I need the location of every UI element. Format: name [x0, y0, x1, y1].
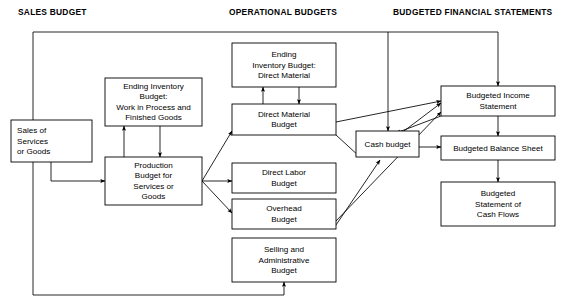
node-direct-labor-budget-label-line-1: Direct Labor [262, 168, 306, 177]
node-ending-inventory-budget-direct-material-label-line-3: Direct Material [258, 71, 310, 80]
node-selling-and-administrative-budget-label-line-1: Selling and [264, 245, 304, 254]
node-budgeted-balance-sheet[interactable]: Budgeted Balance Sheet [441, 136, 555, 160]
node-sales-of-services-or-goods-label-line-2: Services [17, 137, 48, 146]
node-budgeted-statement-of-cash-flows[interactable]: BudgetedStatement ofCash Flows [441, 182, 555, 226]
node-production-budget-for-services-or-goods-label-line-2: Budget for [135, 171, 173, 180]
node-ending-inventory-budget-work-in-process-finished-goods-label-line-3: Work in Process and [116, 103, 191, 112]
node-production-budget-for-services-or-goods[interactable]: ProductionBudget forServices orGoods [105, 157, 202, 205]
node-ending-inventory-budget-work-in-process-finished-goods-label-line-1: Ending Inventory [123, 82, 185, 91]
node-overhead-budget[interactable]: OverheadBudget [232, 199, 336, 229]
node-selling-and-administrative-budget-label-line-2: Administrative [259, 256, 310, 265]
node-budgeted-statement-of-cash-flows-label-line-3: Cash Flows [477, 210, 519, 219]
node-direct-labor-budget-label-line-2: Budget [271, 179, 297, 188]
node-ending-inventory-budget-direct-material[interactable]: EndingInventory Budget:Direct Material [232, 43, 336, 87]
node-cash-budget-label-line-1: Cash budget [365, 140, 412, 149]
node-direct-material-budget-label-line-2: Budget [271, 120, 297, 129]
node-production-budget-for-services-or-goods-label-line-3: Services or [133, 182, 174, 191]
node-ending-inventory-budget-work-in-process-finished-goods-label-line-4: Finished Goods [125, 113, 182, 122]
node-selling-and-administrative-budget[interactable]: Selling andAdministrativeBudget [232, 238, 336, 282]
master-budget-diagram: Sales ofServicesor GoodsEnding Inventory… [0, 0, 566, 308]
node-budgeted-income-statement[interactable]: Budgeted IncomeStatement [441, 86, 555, 116]
connector-direct-material-budget-to-budgeted-income-statement [336, 101, 441, 122]
node-production-budget-for-services-or-goods-label-line-1: Production [134, 161, 173, 170]
node-direct-labor-budget[interactable]: Direct LaborBudget [232, 163, 336, 193]
node-sales-of-services-or-goods-label-line-1: Sales of [17, 126, 47, 135]
connector-production-budget-to-overhead-budget [202, 181, 232, 213]
headers-layer: SALES BUDGETOPERATIONAL BUDGETSBUDGETED … [18, 7, 553, 17]
flowchart-canvas: Sales ofServicesor GoodsEnding Inventory… [0, 0, 566, 308]
connector-overhead-budget-to-cash-budget [336, 160, 380, 225]
connector-production-budget-to-direct-material-budget [202, 131, 232, 181]
node-sales-of-services-or-goods-label-line-3: or Goods [17, 147, 50, 156]
node-direct-material-budget[interactable]: Direct MaterialBudget [232, 104, 336, 135]
node-budgeted-statement-of-cash-flows-label-line-1: Budgeted [481, 189, 516, 198]
node-overhead-budget-label-line-2: Budget [271, 215, 297, 224]
budgeted-financial-statements-header: BUDGETED FINANCIAL STATEMENTS [393, 7, 553, 17]
connector-sales-to-production-budget [51, 162, 105, 181]
node-sales-of-services-or-goods[interactable]: Sales ofServicesor Goods [11, 120, 92, 162]
operational-budgets-header: OPERATIONAL BUDGETS [229, 7, 337, 17]
connector-budgeted-income-statement-to-cash-budget [396, 116, 441, 133]
sales-budget-header: SALES BUDGET [18, 7, 87, 17]
node-budgeted-income-statement-label-line-1: Budgeted Income [466, 91, 530, 100]
node-ending-inventory-budget-work-in-process-finished-goods-label-line-2: Budget: [140, 92, 168, 101]
node-ending-inventory-budget-work-in-process-finished-goods[interactable]: Ending InventoryBudget:Work in Process a… [105, 78, 202, 126]
connector-overhead-budget-to-budgeted-income-statement [336, 112, 441, 221]
node-production-budget-for-services-or-goods-label-line-4: Goods [142, 192, 166, 201]
nodes-layer: Sales ofServicesor GoodsEnding Inventory… [11, 43, 555, 282]
node-ending-inventory-budget-direct-material-label-line-1: Ending [271, 50, 296, 59]
node-budgeted-income-statement-label-line-2: Statement [480, 102, 518, 111]
node-overhead-budget-label-line-1: Overhead [266, 204, 302, 213]
node-cash-budget[interactable]: Cash budget [356, 131, 419, 157]
node-budgeted-statement-of-cash-flows-label-line-2: Statement of [475, 200, 522, 209]
node-budgeted-balance-sheet-label-line-1: Budgeted Balance Sheet [453, 144, 543, 153]
node-selling-and-administrative-budget-label-line-3: Budget [271, 266, 297, 275]
node-ending-inventory-budget-direct-material-label-line-2: Inventory Budget: [252, 61, 315, 70]
node-direct-material-budget-label-line-1: Direct Material [258, 110, 310, 119]
